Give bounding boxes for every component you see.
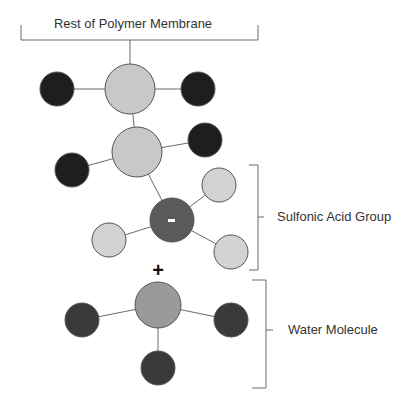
hydrogen-atom-3 bbox=[141, 351, 175, 385]
atoms bbox=[40, 64, 248, 385]
water-center-atom bbox=[135, 282, 181, 328]
oxygen-atom-2 bbox=[92, 223, 126, 257]
water-label: Water Molecule bbox=[288, 322, 378, 337]
fluorine-atom-3 bbox=[188, 123, 222, 157]
sulfonic-bracket bbox=[249, 165, 264, 270]
membrane-bracket bbox=[21, 25, 258, 66]
hydrogen-atom-2 bbox=[214, 303, 248, 337]
plus-sign: + bbox=[152, 259, 164, 281]
water-bracket bbox=[252, 280, 273, 388]
carbon-atom-2 bbox=[112, 127, 162, 177]
membrane-label: Rest of Polymer Membrane bbox=[54, 16, 212, 31]
fluorine-atom-2 bbox=[181, 72, 215, 106]
carbon-atom-1 bbox=[105, 64, 155, 114]
polymer-membrane-diagram: Rest of Polymer Membrane + bbox=[0, 0, 409, 409]
fluorine-atom-1 bbox=[40, 72, 74, 106]
fluorine-atom-4 bbox=[55, 153, 89, 187]
oxygen-atom-3 bbox=[214, 235, 248, 269]
sulfonic-label: Sulfonic Acid Group bbox=[277, 209, 391, 224]
oxygen-atom-1 bbox=[202, 168, 236, 202]
hydrogen-atom-1 bbox=[65, 303, 99, 337]
negative-charge-icon bbox=[168, 219, 175, 222]
